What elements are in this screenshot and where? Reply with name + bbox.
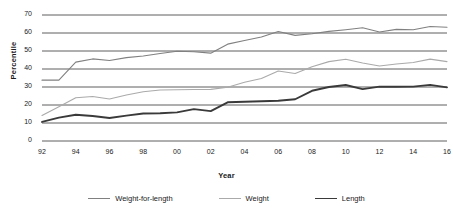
- chart-legend: Weight-for-lengthWeightLength: [0, 190, 453, 206]
- legend-item[interactable]: Length: [315, 194, 365, 203]
- x-tick-label: 02: [201, 148, 221, 155]
- y-axis-title: Percentile: [9, 31, 18, 91]
- gridlines: [42, 15, 447, 141]
- x-tick-label: 92: [32, 148, 52, 155]
- x-tick-label: 94: [66, 148, 86, 155]
- x-tick-label: 14: [403, 148, 423, 155]
- x-tick-label: 08: [302, 148, 322, 155]
- legend-label: Weight-for-length: [115, 194, 172, 203]
- y-tick-label: 10: [10, 118, 32, 125]
- legend-line-icon: [315, 198, 337, 199]
- chart-plot-area: [0, 0, 453, 213]
- x-tick-label: 00: [167, 148, 187, 155]
- legend-label: Length: [342, 194, 365, 203]
- x-tick-label: 10: [336, 148, 356, 155]
- x-tick-label: 12: [370, 148, 390, 155]
- legend-line-icon: [219, 198, 241, 199]
- legend-line-icon: [88, 198, 110, 199]
- series-line-weight-for-length: [42, 27, 447, 81]
- legend-item[interactable]: Weight: [219, 194, 269, 203]
- x-axis-title: Year: [0, 171, 453, 180]
- x-tick-label: 04: [235, 148, 255, 155]
- y-tick-label: 70: [10, 10, 32, 17]
- legend-item[interactable]: Weight-for-length: [88, 194, 172, 203]
- y-tick-label: 0: [10, 136, 32, 143]
- y-tick-label: 20: [10, 100, 32, 107]
- legend-label: Weight: [246, 194, 269, 203]
- percentile-trend-chart: 010203040506070 929496980002040608101214…: [0, 0, 453, 213]
- x-tick-label: 96: [100, 148, 120, 155]
- data-series-group: [42, 27, 447, 122]
- x-tick-label: 06: [268, 148, 288, 155]
- x-tick-label: 16: [437, 148, 453, 155]
- series-line-length: [42, 85, 447, 122]
- x-tick-label: 98: [133, 148, 153, 155]
